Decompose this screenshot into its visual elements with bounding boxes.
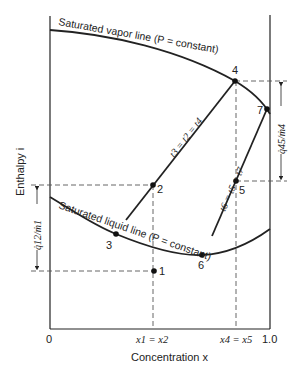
point-3 [113,231,119,237]
label-7: 7 [257,104,263,116]
vapor-curve-label: Saturated vapor line (P = constant) [58,15,220,55]
q12-label: q̇12/ṁ1 [32,220,43,250]
label-4: 4 [232,64,238,76]
x-tick-x4-x5: x4 = x5 [219,334,252,345]
x-axis-label: Concentration x [131,351,209,363]
label-6: 6 [198,259,204,271]
point-1 [151,268,157,274]
point-7 [264,106,270,112]
label-2: 2 [157,183,163,195]
diagram-canvas: 1 2 3 4 5 6 7 Saturated vapor line (P = … [0,0,300,369]
label-1: 1 [159,265,165,277]
y-axis-label: Enthalpy i [14,148,26,196]
x-end-label: 1.0 [262,333,277,345]
label-5: 5 [239,184,245,196]
x-tick-x1-x2: x1 = x2 [135,334,169,345]
enthalpy-concentration-diagram: 1 2 3 4 5 6 7 Saturated vapor line (P = … [0,0,300,369]
tie-line-3-2-4-label: t3 = t2 = t4 [167,116,205,160]
q45-label: q̇45/ṁ4 [276,124,287,154]
label-3: 3 [106,239,112,251]
point-4 [232,78,238,84]
point-2 [150,182,156,188]
x-origin-label: 0 [46,333,52,345]
